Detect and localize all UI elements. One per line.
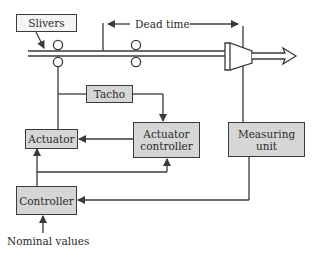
tacho-block: Tacho xyxy=(86,85,133,103)
actuator-controller-label: Actuator controller xyxy=(138,128,195,152)
dead-time-label: Dead time xyxy=(135,18,190,30)
slivers-label: Slivers xyxy=(28,17,64,29)
slivers-block: Slivers xyxy=(16,14,77,32)
measuring-unit-label: Measuring unit xyxy=(229,128,304,152)
actuator-block: Actuator xyxy=(25,129,78,149)
actuator-label: Actuator xyxy=(28,133,74,145)
actuator-controller-block: Actuator controller xyxy=(133,122,200,158)
controller-label: Controller xyxy=(19,195,74,207)
nominal-values-label: Nominal values xyxy=(7,235,89,247)
tacho-label: Tacho xyxy=(94,88,125,100)
control-diagram: Slivers Dead time Tacho Actuator Actuato… xyxy=(0,0,312,257)
controller-block: Controller xyxy=(16,186,77,215)
measuring-unit-block: Measuring unit xyxy=(228,122,305,157)
